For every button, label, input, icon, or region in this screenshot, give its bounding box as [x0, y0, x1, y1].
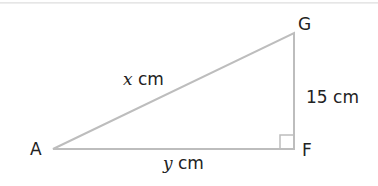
side-label-fg: 15 cm [306, 89, 359, 106]
right-angle-marker [280, 135, 294, 149]
unit-cm: cm [178, 153, 204, 173]
vertex-label-f: F [302, 142, 312, 159]
vertex-label-a: A [30, 141, 42, 158]
side-label-af: y cm [163, 155, 204, 172]
side-label-ag: x cm [123, 71, 164, 88]
unit-cm: cm [138, 69, 164, 89]
vertex-label-g: G [298, 16, 311, 33]
variable-x: x [123, 69, 133, 89]
triangle-diagram: G A F x cm 15 cm y cm [0, 0, 378, 186]
variable-y: y [163, 153, 173, 173]
triangle-AFG [53, 33, 294, 149]
